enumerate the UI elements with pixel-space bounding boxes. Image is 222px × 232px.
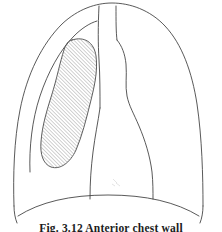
trachea-left-wall (98, 6, 100, 108)
mediastinal-left-border (90, 108, 100, 199)
figure-caption: Fig. 3.12 Anterior chest wall (0, 222, 222, 232)
figure-container: Fig. 3.12 Anterior chest wall (0, 0, 222, 232)
faint-shading-mark (112, 179, 120, 186)
diaphragm (18, 195, 199, 216)
trachea-right-wall (116, 6, 117, 40)
thorax-anatomy-diagram (0, 0, 222, 232)
mediastinal-right-border (117, 40, 153, 199)
chest-wall-outline (14, 3, 203, 206)
right-costophrenic-angle (200, 206, 203, 223)
left-costophrenic-angle (14, 206, 17, 223)
